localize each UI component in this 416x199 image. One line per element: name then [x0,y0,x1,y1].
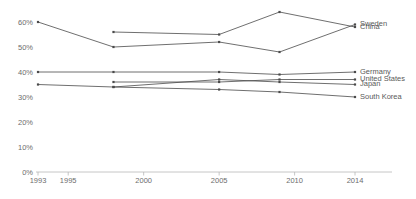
series-point [218,41,220,43]
x-tick-label: 2010 [286,176,303,185]
y-tick-label: 40% [18,68,33,77]
y-tick-label: 30% [18,93,33,102]
x-tick-label: 2000 [135,176,152,185]
series-line [113,12,355,35]
chart-svg: 0%10%20%30%40%50%60% 1993199520002005201… [0,0,416,199]
series-point [354,71,356,73]
y-tick-label: 10% [18,143,33,152]
series-point [354,83,356,85]
series-line [38,22,355,52]
series-point [218,71,220,73]
series-point [278,81,280,83]
series-labels: SwedenChinaGermanyUnited StatesJapanSout… [360,19,405,101]
x-tick-label: 2005 [211,176,228,185]
series-point [218,33,220,35]
series-points [37,11,356,98]
series-point [278,73,280,75]
series-line [38,72,355,75]
series-point [278,11,280,13]
x-tick-label: 1993 [30,176,47,185]
y-tick-label: 60% [18,18,33,27]
series-point [112,71,114,73]
series-point [37,83,39,85]
series-point [112,86,114,88]
series-point [37,71,39,73]
series-point [354,96,356,98]
series-point [354,26,356,28]
series-label-japan: Japan [360,79,380,88]
series-point [354,23,356,25]
series-line [38,85,355,98]
series-lines [38,12,355,97]
series-label-south-korea: South Korea [360,92,403,101]
series-point [218,81,220,83]
series-point [278,78,280,80]
series-point [278,51,280,53]
x-tick-label: 1995 [60,176,77,185]
x-axis [36,172,392,176]
y-tick-label: 20% [18,118,33,127]
x-axis-tick-labels: 199319952000200520102014 [30,176,364,185]
series-point [37,21,39,23]
y-axis-tick-labels: 0%10%20%30%40%50%60% [18,18,33,177]
series-point [354,78,356,80]
series-point [278,91,280,93]
series-label-china: China [360,22,380,31]
series-point [112,46,114,48]
line-chart: 0%10%20%30%40%50%60% 1993199520002005201… [0,0,416,199]
series-point [218,88,220,90]
y-tick-label: 50% [18,43,33,52]
series-point [112,81,114,83]
series-point [218,78,220,80]
series-point [112,31,114,33]
series-line [113,80,355,88]
x-tick-label: 2014 [347,176,364,185]
